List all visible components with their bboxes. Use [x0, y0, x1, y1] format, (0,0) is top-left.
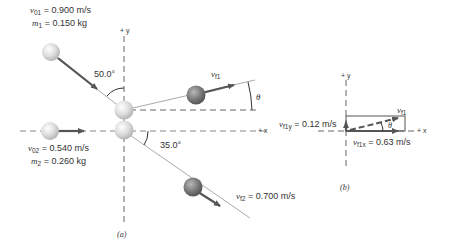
- vf1-b-label: vf1: [397, 105, 406, 118]
- vf1y-label: vf1y = 0.12 m/s: [279, 119, 336, 132]
- caption-a: (a): [117, 230, 126, 240]
- vf1x-label: vf1x = 0.63 m/s: [353, 137, 410, 150]
- angle-arc-theta-b: [381, 123, 383, 131]
- angle-arc-theta: [248, 82, 252, 110]
- angle-arc-35: [144, 131, 148, 145]
- theta-b-label: θ: [388, 121, 392, 131]
- ball-2-initial: [41, 122, 59, 140]
- angle-35-label: 35.0°: [160, 140, 181, 150]
- angle-arc-50: [107, 88, 124, 96]
- y-axis-b-label: + y: [341, 71, 351, 81]
- outgoing-path-2: [124, 131, 250, 218]
- diagram-canvas: [0, 0, 450, 249]
- v01-label: v01 = 0.900 m/s: [30, 5, 91, 18]
- x-axis-a-label: + x: [258, 126, 268, 136]
- ball-2-collision: [115, 121, 134, 140]
- m2-label: m2 = 0.260 kg: [31, 156, 86, 169]
- vf1-label: vf1: [211, 69, 220, 82]
- caption-b: (b): [340, 183, 349, 193]
- v02-label: v02 = 0.540 m/s: [28, 143, 89, 156]
- m1-label: m1 = 0.150 kg: [32, 18, 87, 31]
- y-axis-a-label: + y: [120, 26, 130, 36]
- ball-1-collision: [115, 101, 134, 120]
- vf2-label: vf2 = 0.700 m/s: [236, 191, 295, 204]
- ball-1-final: [187, 86, 206, 105]
- x-axis-b-label: + x: [417, 126, 427, 136]
- ball-2-final: [184, 178, 203, 197]
- ball-1-initial: [42, 43, 60, 61]
- v01-arrow: [58, 58, 97, 89]
- vf1-arrow: [202, 85, 234, 93]
- angle-50-label: 50.0°: [94, 69, 115, 79]
- theta-label: θ: [256, 92, 260, 102]
